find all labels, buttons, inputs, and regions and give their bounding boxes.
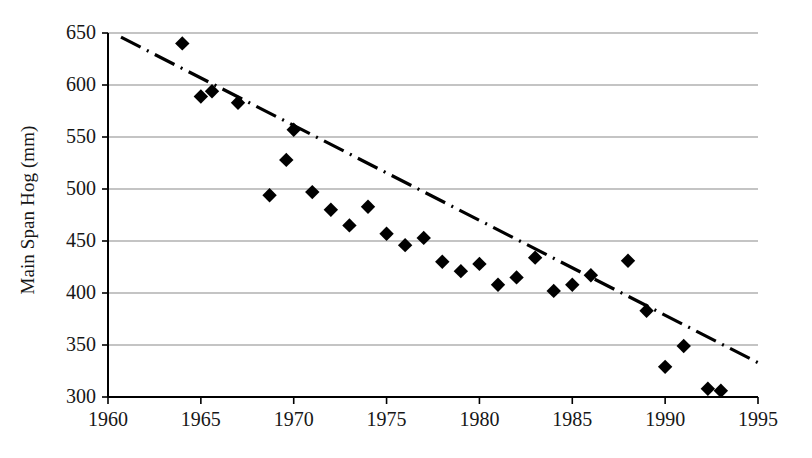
- y-tick-label: 500: [38, 178, 96, 198]
- data-point-marker: [565, 277, 579, 291]
- data-point-marker: [305, 185, 319, 199]
- data-points: [175, 36, 728, 398]
- data-point-marker: [342, 218, 356, 232]
- x-tick-label: 1990: [625, 409, 705, 429]
- data-point-marker: [417, 231, 431, 245]
- data-point-marker: [361, 199, 375, 213]
- y-tick-label: 300: [38, 386, 96, 406]
- data-point-marker: [677, 339, 691, 353]
- x-tick-label: 1970: [254, 409, 334, 429]
- data-point-marker: [262, 188, 276, 202]
- x-tick-label: 1965: [161, 409, 241, 429]
- x-tick-label: 1980: [439, 409, 519, 429]
- axes: [108, 33, 758, 397]
- data-point-marker: [231, 95, 245, 109]
- data-point-marker: [324, 203, 338, 217]
- data-point-marker: [714, 384, 728, 398]
- data-point-marker: [175, 36, 189, 50]
- data-point-marker: [398, 238, 412, 252]
- y-tick-label: 350: [38, 334, 96, 354]
- x-tick-label: 1960: [68, 409, 148, 429]
- data-point-marker: [491, 277, 505, 291]
- data-point-marker: [379, 227, 393, 241]
- data-point-marker: [279, 153, 293, 167]
- data-point-marker: [639, 303, 653, 317]
- y-tick-label: 550: [38, 126, 96, 146]
- data-point-marker: [621, 254, 635, 268]
- data-point-marker: [472, 257, 486, 271]
- x-tick-label: 1975: [347, 409, 427, 429]
- x-tick-label: 1985: [532, 409, 612, 429]
- x-tick-label: 1995: [718, 409, 798, 429]
- data-point-marker: [454, 264, 468, 278]
- x-ticks: [108, 397, 758, 404]
- y-tick-label: 400: [38, 282, 96, 302]
- chart-container: Main Span Hog (mm) 300350400450500550600…: [0, 0, 812, 458]
- data-point-marker: [547, 284, 561, 298]
- data-point-marker: [435, 255, 449, 269]
- y-tick-label: 600: [38, 74, 96, 94]
- data-point-marker: [701, 381, 715, 395]
- data-point-marker: [509, 270, 523, 284]
- y-tick-label: 650: [38, 22, 96, 42]
- plot-area: [0, 0, 812, 458]
- trend-line: [121, 37, 758, 363]
- data-point-marker: [658, 360, 672, 374]
- data-point-marker: [287, 123, 301, 137]
- y-tick-label: 450: [38, 230, 96, 250]
